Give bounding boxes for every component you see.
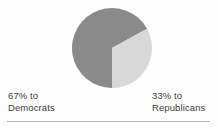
footer-divider [7, 121, 210, 122]
legend-label-republicans: 33% to Republicans [152, 90, 205, 113]
legend-democrats-name: Democrats [8, 102, 55, 114]
legend-republicans-percent: 33% to [152, 90, 205, 102]
legend-democrats-percent: 67% to [8, 90, 55, 102]
legend-republicans-name: Republicans [152, 102, 205, 114]
pie-chart-figure: 67% to Democrats 33% to Republicans [0, 0, 218, 128]
legend-label-democrats: 67% to Democrats [8, 90, 55, 113]
